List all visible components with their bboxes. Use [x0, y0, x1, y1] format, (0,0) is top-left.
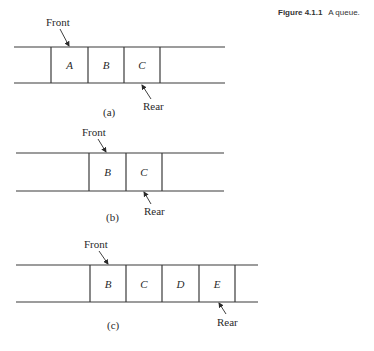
figure-caption: Figure 4.1.1 A queue. [278, 8, 360, 17]
queue-panel-c: BCDEFrontRear(c) [16, 238, 258, 332]
front-arrow-icon [98, 139, 106, 152]
queue-element: B [104, 166, 111, 178]
rear-arrow-icon [219, 303, 226, 314]
queue-element: E [213, 278, 221, 290]
queue-element: B [105, 278, 112, 290]
front-arrow-icon [60, 29, 69, 46]
figure-number: Figure 4.1.1 [278, 8, 322, 17]
queue-element: C [140, 278, 148, 290]
rear-arrow-icon [144, 192, 151, 204]
front-label: Front [82, 126, 106, 138]
figure-title: A queue. [328, 8, 360, 17]
rear-label: Rear [143, 100, 164, 112]
rear-arrow-icon [142, 85, 151, 99]
rear-label: Rear [217, 316, 238, 328]
queue-element: C [138, 59, 146, 71]
queue-element: A [65, 59, 73, 71]
panel-label: (b) [106, 211, 119, 224]
front-label: Front [84, 238, 108, 250]
queue-element: B [103, 59, 110, 71]
queue-element: C [140, 166, 148, 178]
queue-diagram: ABCFrontRear(a)BCFrontRear(b)BCDEFrontRe… [0, 0, 374, 351]
front-arrow-icon [99, 251, 108, 264]
rear-label: Rear [144, 205, 165, 217]
panel-label: (c) [107, 319, 120, 332]
front-label: Front [46, 16, 70, 28]
queue-panel-a: ABCFrontRear(a) [14, 16, 225, 119]
queue-figure: ABCFrontRear(a)BCFrontRear(b)BCDEFrontRe… [0, 0, 374, 351]
queue-panel-b: BCFrontRear(b) [16, 126, 224, 224]
panel-label: (a) [103, 106, 116, 119]
queue-element: D [176, 278, 185, 290]
